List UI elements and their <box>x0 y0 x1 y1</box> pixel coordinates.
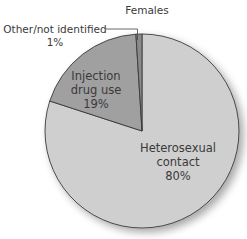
other-pct: 1% <box>47 36 64 48</box>
heterosexual-pct: 80% <box>165 169 191 183</box>
heterosexual-label-1: Heterosexual <box>140 141 216 155</box>
chart-title: Females <box>125 4 168 16</box>
heterosexual-label-2: contact <box>156 155 200 169</box>
injection-label-2: drug use <box>71 83 122 97</box>
other-label: Other/not identified <box>3 23 106 35</box>
injection-label-1: Injection <box>71 69 120 83</box>
injection-pct: 19% <box>83 97 109 111</box>
pie-chart: Females Other/not identified 1% Injectio… <box>0 0 247 239</box>
pie <box>45 34 239 228</box>
